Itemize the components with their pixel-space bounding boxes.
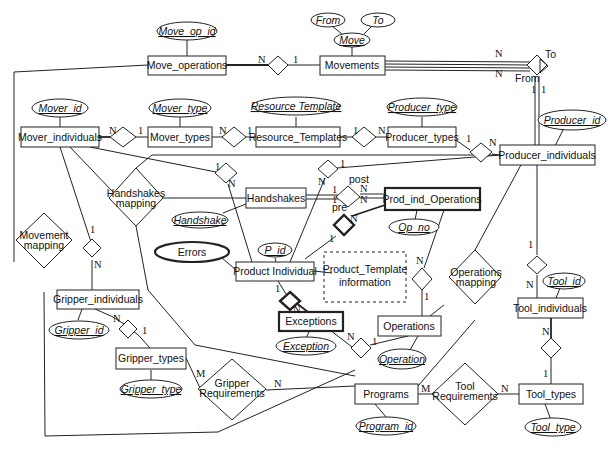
attribute-move[interactable]: Move [334, 33, 370, 47]
entity-programs[interactable]: Programs [355, 384, 418, 404]
relationship-operations-mapping[interactable]: Operations mapping [449, 250, 502, 304]
attribute-tool-id[interactable]: Tool_id [543, 273, 585, 289]
relationship-label: mapping [456, 276, 496, 288]
entity-producer-individuals[interactable]: Producer_individuals [498, 145, 595, 165]
cardinality: N [347, 331, 355, 342]
note-line: Product_Template [323, 263, 408, 275]
entity-operations[interactable]: Operations [378, 316, 441, 336]
cardinality: 1 [424, 291, 429, 302]
attribute-to[interactable]: To [361, 13, 395, 27]
attribute-from[interactable]: From [311, 13, 345, 27]
er-diagram: Move_operations Movements Mover_individu… [0, 0, 609, 450]
entity-tool-individuals[interactable]: Tool_individuals [513, 298, 587, 318]
attribute-label: Program_id [359, 420, 414, 432]
cardinality: 1 [215, 161, 220, 172]
relationship-moverind-gripperind[interactable] [83, 239, 101, 257]
attribute-resource-template[interactable]: Resource Template [251, 97, 342, 115]
cardinality: 1 [142, 325, 147, 336]
relationship-label: Requirements [199, 387, 264, 399]
cardinality: N [542, 326, 550, 337]
cardinality: N [109, 125, 117, 136]
line-toolid [556, 288, 560, 298]
attribute-gripper-type[interactable]: Gripper_type [120, 380, 182, 398]
line-gripperid [78, 309, 82, 320]
entity-mover-types[interactable]: Mover_types [148, 127, 212, 147]
attribute-move-op-id[interactable]: Move_op_id [157, 22, 217, 40]
entity-label: Movements [325, 59, 379, 71]
entity-label: Mover_individuals [18, 131, 102, 143]
attribute-p-id[interactable]: P_id [258, 243, 292, 257]
attribute-label: Tool_id [547, 275, 582, 287]
relationship-movement-mapping[interactable]: Movement mapping [16, 213, 72, 268]
cardinality: 1 [541, 84, 546, 95]
attribute-label: Op_no [398, 221, 430, 233]
cardinality: 1 [293, 54, 298, 65]
relationship-gripper-requirements[interactable]: Gripper Requirements [198, 359, 266, 420]
attribute-exception[interactable]: Exception [276, 337, 336, 355]
cardinality: N [258, 54, 266, 65]
relationship-producerind-toolind[interactable] [527, 256, 547, 274]
line-programid [375, 404, 387, 418]
attribute-mover-type[interactable]: Mover_type [149, 99, 211, 117]
entity-resource-templates[interactable]: Resource_Templates [249, 127, 348, 147]
entity-label: Mover_types [150, 131, 210, 143]
entity-product-individual[interactable]: Product Individual [233, 262, 316, 281]
attribute-label: Mover_id [38, 102, 82, 114]
attribute-label: Operation [379, 353, 425, 365]
cardinality: 1 [528, 239, 533, 250]
attribute-label: Errors [178, 246, 207, 258]
attribute-tool-type[interactable]: Tool_type [525, 418, 581, 436]
cardinality: N [360, 183, 368, 194]
entity-move-operations[interactable]: Move_operations [147, 56, 228, 75]
entity-movements[interactable]: Movements [320, 56, 385, 75]
entity-prod-ind-operations[interactable]: Prod_ind_Operations [382, 188, 481, 210]
entity-tool-types[interactable]: Tool_types [519, 384, 583, 404]
attribute-label: To [372, 14, 383, 26]
cardinality: 1 [247, 125, 252, 136]
attribute-label: Gripper_id [54, 324, 104, 336]
cardinality: N [293, 304, 301, 315]
attribute-errors[interactable]: Errors [155, 242, 229, 262]
cardinality: 1 [543, 368, 548, 379]
product-template-note: Product_Template information [323, 252, 408, 302]
cardinality: N [94, 259, 102, 270]
cardinality: N [318, 176, 326, 187]
entity-label: Exceptions [285, 315, 336, 327]
cardinality: 1 [353, 125, 358, 136]
entity-producer-types[interactable]: Producer_types [385, 127, 459, 147]
cardinality: N [416, 255, 424, 266]
attribute-label: Producer_type [388, 101, 456, 113]
attribute-gripper-id[interactable]: Gripper_id [49, 321, 109, 339]
attribute-label: Exception [283, 340, 329, 352]
relationship-moveops-movements[interactable] [268, 56, 288, 75]
attribute-mover-id[interactable]: Mover_id [32, 99, 88, 117]
attribute-producer-type[interactable]: Producer_type [387, 98, 457, 116]
attribute-producer-id[interactable]: Producer_id [538, 110, 606, 130]
entity-label: Product Individual [233, 265, 316, 277]
relationship-prodops-operations[interactable] [412, 268, 432, 290]
cardinality: M [196, 368, 206, 379]
cardinality: N [350, 213, 358, 224]
relationship-toolind-tooltypes[interactable] [541, 338, 561, 358]
entity-handshakes[interactable]: Handshakes [246, 188, 306, 208]
cardinality: N [489, 137, 497, 148]
relationship-handshakes-mapping[interactable]: Handshakes mapping [107, 168, 165, 226]
attribute-handshake[interactable]: Handshake [172, 212, 228, 228]
line-producerind-opsmap [475, 163, 522, 250]
line-movements-to-2 [385, 64, 530, 65]
entity-gripper-individuals[interactable]: Gripper_individuals [53, 290, 143, 309]
entity-label: Operations [383, 320, 434, 332]
line-movements-from [385, 67, 530, 68]
entity-mover-individuals[interactable]: Mover_individuals [18, 127, 102, 147]
relationship-label: mapping [24, 239, 64, 251]
line-operation-attr [410, 336, 418, 350]
cardinality: N [526, 279, 534, 290]
entity-gripper-types[interactable]: Gripper_types [116, 348, 186, 369]
entity-exceptions[interactable]: Exceptions [279, 312, 343, 331]
attribute-program-id[interactable]: Program_id [356, 417, 416, 435]
relationship-tool-requirements[interactable]: Tool Requirements [432, 363, 498, 425]
cardinality: 1 [329, 233, 334, 244]
attribute-op-no[interactable]: Op_no [389, 219, 439, 235]
attribute-operation[interactable]: Operation [378, 349, 426, 369]
line-opno [415, 210, 417, 220]
